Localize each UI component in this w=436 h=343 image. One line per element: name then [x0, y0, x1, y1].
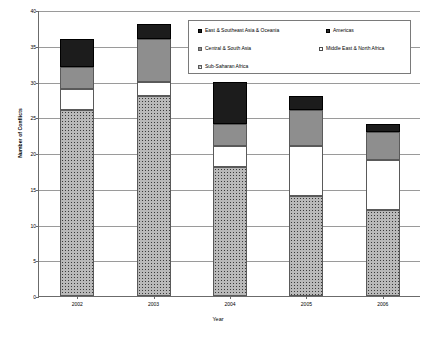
figure-caption [3, 334, 433, 343]
legend-entry: East & Southeast Asia & Oceania [198, 28, 279, 33]
y-axis-tick [36, 118, 39, 119]
y-axis-tick-label: 35 [30, 44, 36, 50]
y-axis-tick [36, 190, 39, 191]
y-axis-title: Number of Conflicts [17, 78, 23, 188]
bar-segment [60, 39, 94, 68]
y-axis-tick [36, 11, 39, 12]
bar-segment [366, 160, 400, 210]
y-axis-tick-label: 40 [30, 8, 36, 14]
legend-entry: Central & South Asia [198, 46, 251, 51]
bar-segment [213, 167, 247, 296]
legend-swatch-icon [198, 65, 202, 69]
legend-label: Sub-Saharan Africa [205, 64, 248, 69]
legend-entry: Americas [326, 28, 354, 33]
bar-group: 2002 [60, 10, 94, 296]
legend-entry: Sub-Saharan Africa [198, 64, 248, 69]
x-axis-tick-label: 2003 [148, 301, 159, 307]
y-axis-tick-label: 15 [30, 187, 36, 193]
x-axis-tick-label: 2005 [301, 301, 312, 307]
y-axis-tick-label: 0 [33, 294, 36, 300]
y-axis-tick-label: 10 [30, 223, 36, 229]
bar-segment [60, 110, 94, 296]
legend-entry: Middle East & North Africa [319, 46, 384, 51]
bar-segment [137, 24, 171, 38]
x-axis-tick-label: 2004 [224, 301, 235, 307]
stacked-bar-chart: Number of Conflicts 05101520253035402002… [0, 0, 436, 343]
bar-segment [137, 96, 171, 296]
y-axis-tick-label: 5 [33, 258, 36, 264]
bar-segment [289, 110, 323, 146]
legend-label: Middle East & North Africa [326, 46, 384, 51]
x-axis-title: Year [0, 316, 436, 322]
bar-segment [60, 89, 94, 110]
bar-segment [366, 124, 400, 131]
legend-swatch-icon [198, 29, 202, 33]
bar-segment [289, 96, 323, 110]
x-axis-tick [306, 296, 307, 299]
x-axis-tick [77, 296, 78, 299]
x-axis-tick [154, 296, 155, 299]
y-axis-tick [36, 226, 39, 227]
bar-segment [60, 67, 94, 88]
legend-swatch-icon [198, 47, 202, 51]
bar-segment [366, 132, 400, 161]
bar-segment [366, 210, 400, 296]
legend-label: Central & South Asia [205, 46, 251, 51]
x-axis-tick-label: 2002 [72, 301, 83, 307]
x-axis-tick-label: 2006 [377, 301, 388, 307]
y-axis-tick-label: 20 [30, 151, 36, 157]
legend-swatch-icon [326, 29, 330, 33]
bar-segment [213, 146, 247, 167]
legend-label: East & Southeast Asia & Oceania [205, 28, 279, 33]
bar-segment [137, 82, 171, 96]
y-axis-tick [36, 261, 39, 262]
y-axis-tick [36, 83, 39, 84]
bar-segment [213, 82, 247, 125]
bar-segment [137, 39, 171, 82]
y-axis-tick [36, 297, 39, 298]
legend-label: Americas [333, 28, 354, 33]
chart-legend: East & Southeast Asia & Oceania Americas… [188, 20, 411, 74]
y-axis-tick [36, 154, 39, 155]
x-axis-tick [230, 296, 231, 299]
y-axis-tick-label: 25 [30, 115, 36, 121]
bar-group: 2003 [137, 10, 171, 296]
legend-swatch-icon [319, 47, 323, 51]
y-axis-tick-label: 30 [30, 80, 36, 86]
x-axis-tick [383, 296, 384, 299]
bar-segment [289, 196, 323, 296]
bar-segment [289, 146, 323, 196]
bar-segment [213, 124, 247, 145]
y-axis-tick [36, 47, 39, 48]
